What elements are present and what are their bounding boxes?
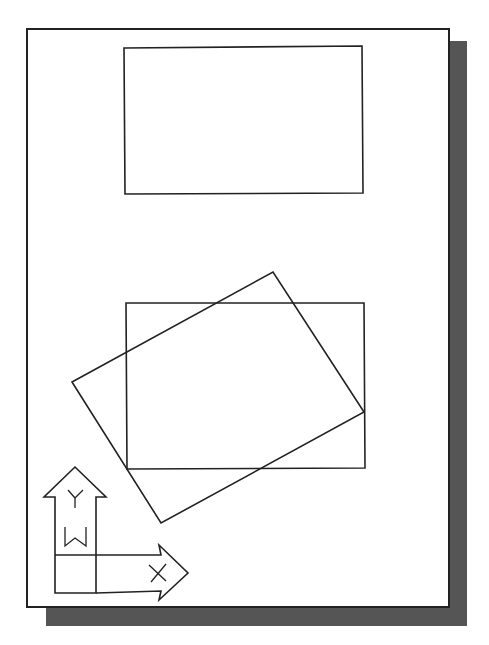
ucs-x-letter-icon <box>149 564 166 582</box>
ucs-x-arrow <box>96 545 188 600</box>
lower-rectangle[interactable] <box>126 303 365 469</box>
ucs-y-letter-icon <box>68 490 83 508</box>
ucs-w-letter-icon <box>65 527 86 546</box>
ucs-y-arrow <box>44 467 106 555</box>
drawing-canvas[interactable] <box>0 0 489 645</box>
top-rectangle[interactable] <box>124 46 363 194</box>
ucs-icon <box>44 467 188 600</box>
ucs-origin-box <box>55 555 96 593</box>
rotated-rectangle[interactable] <box>72 272 364 523</box>
